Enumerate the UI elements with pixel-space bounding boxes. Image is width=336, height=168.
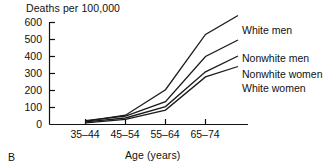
y-tick-label-300: 300 (10, 67, 42, 79)
y-tick-label-500: 500 (10, 33, 42, 45)
x-tick-label-65-74: 65–74 (178, 128, 232, 140)
series-label-nonwhite-women: Nonwhite women (242, 68, 323, 80)
y-tick-label-400: 400 (10, 50, 42, 62)
x-axis-title: Age (years) (125, 149, 180, 161)
y-tick-label-600: 600 (10, 16, 42, 28)
series-label-white-men: White men (242, 24, 292, 36)
y-tick-label-0: 0 (10, 118, 42, 130)
series-label-nonwhite-men: Nonwhite men (242, 52, 309, 64)
series-label-white-women: White women (242, 82, 306, 94)
series-line-white-women (86, 67, 239, 123)
series-line-nonwhite-men (86, 40, 239, 121)
y-axis-title: Deaths per 100,000 (26, 2, 120, 14)
y-tick-label-100: 100 (10, 101, 42, 113)
series-line-nonwhite-women (86, 56, 239, 122)
chart-figure: Deaths per 100,000 Age (years) 600 500 4… (0, 0, 336, 168)
panel-label: B (8, 151, 15, 163)
y-tick-label-200: 200 (10, 84, 42, 96)
series-line-white-men (86, 16, 239, 122)
